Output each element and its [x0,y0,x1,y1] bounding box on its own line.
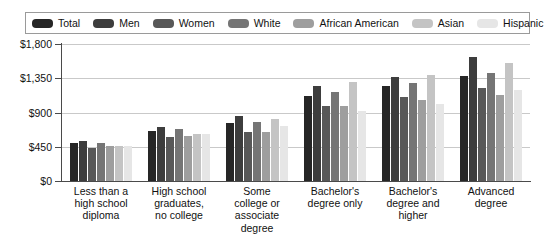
x-axis-category-label: Less than ahigh schooldiploma [62,185,140,222]
legend-swatch-icon [293,19,314,28]
bar[interactable] [148,131,156,181]
bar-group [460,44,522,181]
legend-item-hispanic[interactable]: Hispanic [477,13,550,33]
bar[interactable] [271,119,279,181]
x-axis-label-line: Some [218,185,296,197]
legend-item-label: Men [119,18,139,29]
bar[interactable] [235,116,243,181]
x-axis-label-line: Less than a [62,185,140,197]
x-axis-label-line: high school [62,197,140,209]
legend-item-women[interactable]: Women [153,13,228,33]
x-axis-label-line: higher [374,209,452,221]
bar[interactable] [97,143,105,181]
x-axis-label-line: degree and [374,197,452,209]
y-axis-tick-label: $1,800 [2,39,52,50]
bar[interactable] [175,129,183,181]
x-axis-label-line: Bachelor's [296,185,374,197]
legend-item-total[interactable]: Total [32,13,93,33]
legend-item-label: Total [58,18,80,29]
bar[interactable] [382,86,390,181]
x-axis-line [61,181,531,182]
x-axis-label-line: associate degree [218,209,296,233]
bar[interactable] [79,141,87,181]
x-axis-label-line: graduates, [140,197,218,209]
bar[interactable] [478,88,486,181]
x-axis-category-label: Bachelor'sdegree andhigher [374,185,452,222]
bar[interactable] [166,137,174,181]
bar[interactable] [349,82,357,181]
bar[interactable] [124,146,132,181]
x-axis-category-label: High schoolgraduates,no college [140,185,218,222]
bar[interactable] [313,86,321,181]
x-axis-category-label: Advanceddegree [452,185,530,209]
legend-item-label: Asian [438,18,464,29]
legend-item-label: African American [319,18,398,29]
legend-item-label: Women [179,18,215,29]
bar[interactable] [487,73,495,181]
bar-group [70,44,132,181]
bar[interactable] [436,104,444,181]
legend-item-african-american[interactable]: African American [293,13,411,33]
bar[interactable] [106,146,114,181]
x-axis-label-line: no college [140,209,218,221]
x-axis-category-label: Bachelor'sdegree only [296,185,374,209]
bar[interactable] [70,143,78,181]
legend-swatch-icon [412,19,433,28]
y-axis-tick-label: $900 [2,108,52,119]
x-axis-label-line: degree only [296,197,374,209]
bar[interactable] [514,90,522,181]
bar[interactable] [427,75,435,181]
bar[interactable] [88,148,96,181]
bar-group [148,44,210,181]
legend-item-white[interactable]: White [228,13,294,33]
bar[interactable] [460,76,468,181]
bar-group [382,44,444,181]
bar[interactable] [409,83,417,181]
bar[interactable] [496,95,504,181]
legend-swatch-icon [477,19,498,28]
bar[interactable] [193,134,201,181]
bar[interactable] [157,127,165,181]
legend-item-label: Hispanic [503,18,543,29]
bar[interactable] [202,134,210,181]
bar[interactable] [253,122,261,181]
x-axis-label-line: college or [218,197,296,209]
bar[interactable] [280,126,288,181]
bar[interactable] [391,77,399,181]
legend-swatch-icon [228,19,249,28]
bar[interactable] [418,100,426,181]
bar[interactable] [505,63,513,181]
bar[interactable] [304,96,312,181]
legend-item-asian[interactable]: Asian [412,13,477,33]
x-axis-category-label: Somecollege orassociate degree [218,185,296,234]
bar[interactable] [469,57,477,181]
bar[interactable] [115,146,123,181]
bar[interactable] [400,97,408,181]
bar-group [304,44,366,181]
x-axis-label-line: High school [140,185,218,197]
bar[interactable] [340,106,348,181]
bar[interactable] [331,92,339,181]
y-axis-tick-label: $450 [2,142,52,153]
x-axis-label-line: degree [452,197,530,209]
bar[interactable] [184,136,192,181]
legend-swatch-icon [153,19,174,28]
legend-swatch-icon [32,19,53,28]
plot-area [62,44,530,181]
legend-swatch-icon [93,19,114,28]
x-axis-label-line: diploma [62,209,140,221]
y-axis-tick-label: $0 [2,176,52,187]
bar[interactable] [226,123,234,181]
chart-legend: TotalMenWomenWhiteAfrican AmericanAsianH… [25,12,530,34]
bar-group [226,44,288,181]
bar[interactable] [358,111,366,181]
legend-item-label: White [254,18,281,29]
x-axis-label-line: Advanced [452,185,530,197]
bar[interactable] [322,106,330,181]
bar[interactable] [244,132,252,181]
x-axis-labels: Less than ahigh schooldiplomaHigh school… [62,185,530,235]
earnings-by-education-bar-chart: TotalMenWomenWhiteAfrican AmericanAsianH… [0,0,550,237]
bar[interactable] [262,132,270,181]
legend-item-men[interactable]: Men [93,13,152,33]
y-axis-tick-label: $1,350 [2,73,52,84]
